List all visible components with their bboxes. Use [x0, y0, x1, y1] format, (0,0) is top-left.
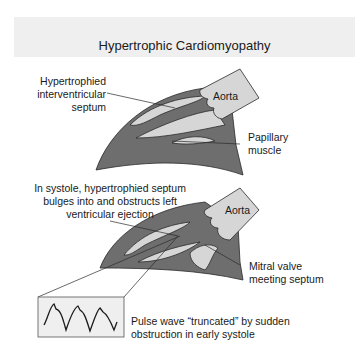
label-pulse-wave: Pulse wave “truncated” by sudden obstruc… [131, 315, 290, 341]
pulse-wave-inset [38, 297, 124, 337]
label-hypertrophied-septum: Hypertrophied interventricular septum [14, 75, 106, 114]
heart-diagrams [0, 0, 355, 362]
label-papillary-muscle: Papillary muscle [248, 131, 288, 157]
label-mitral-valve: Mitral valve meeting septum [249, 260, 324, 286]
top-heart [96, 69, 259, 175]
label-aorta-bottom: Aorta [225, 204, 250, 217]
label-aorta-top: Aorta [213, 90, 238, 103]
label-systole-obstruction: In systole, hypertrophied septum bulges … [20, 182, 200, 221]
